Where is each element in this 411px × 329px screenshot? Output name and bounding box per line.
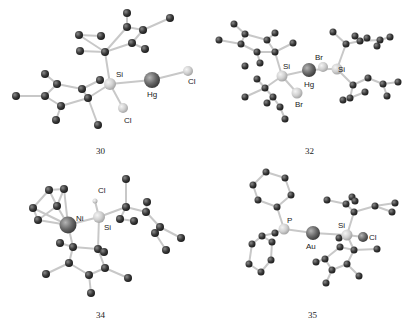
atom-label-cl: Cl [369,233,377,242]
molecule-35: P Au Si Cl [205,165,411,329]
molecule-34: Ni Si Cl [0,165,205,329]
atom-label-hg: Hg [147,90,157,99]
mercury-atom [144,72,160,88]
bonds [249,172,395,283]
chlorine-atom [118,103,128,113]
atom-label-hg: Hg [304,80,314,89]
carbon-atoms [246,169,399,287]
mercury-atom [302,63,316,77]
silicon-atom [277,71,288,82]
atom-label-br: Br [295,100,303,109]
atom-label-p: P [287,216,292,225]
gold-atom [306,226,320,240]
chlorine-atom [183,66,193,76]
chlorine-atom [358,232,368,242]
atom-label-si: Si [116,70,123,79]
hydrogen-atom [93,199,98,204]
molecule-32: Si Si Hg Br Br [205,0,411,165]
atom-label-br: Br [315,53,323,62]
structure-panel-32: Si Si Hg Br Br 32 [205,0,411,165]
atom-label-cl: Cl [124,116,132,125]
silicon-atom [342,230,353,241]
atom-label-cl: Cl [98,186,106,195]
carbon-atoms [29,175,185,297]
bromine-atom [292,88,303,99]
structure-panel-34: Ni Si Cl 34 [0,165,205,329]
atom-label-si: Si [283,62,290,71]
compound-number: 30 [96,146,105,156]
compound-number: 35 [308,310,317,320]
molecule-30: Si Hg Cl Cl [0,0,205,165]
compound-number: 34 [96,310,105,320]
silicon-atom [93,211,105,223]
silicon-atom [104,78,116,90]
structure-panel-35: P Au Si Cl 35 [205,165,411,329]
phosphorus-atom [279,224,290,235]
atom-label-ni: Ni [76,214,84,223]
structure-panel-30: Si Hg Cl Cl 30 [0,0,205,165]
atom-label-si: Si [338,65,345,74]
bromine-atom [318,62,328,72]
nickel-atom [60,217,77,234]
atom-label-si: Si [338,221,345,230]
atom-label-si: Si [104,223,111,232]
bonds [33,179,181,293]
atom-label-au: Au [306,242,316,251]
atom-label-cl: Cl [188,77,196,86]
bonds [16,13,188,125]
compound-number: 32 [305,146,314,156]
